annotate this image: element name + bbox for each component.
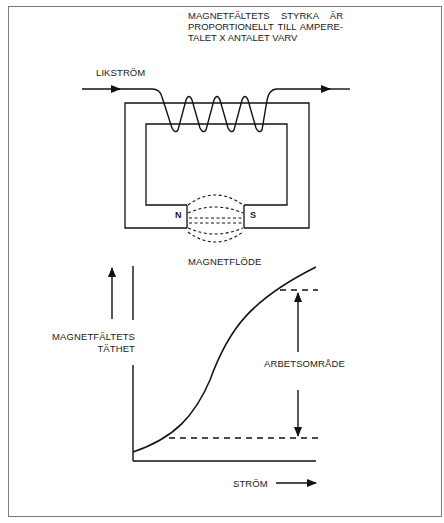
y-axis-label-line-2: TÄTHET: [48, 343, 135, 354]
iron-core: [125, 103, 309, 228]
coil-windings: [172, 89, 276, 132]
annotation-line-1: MAGNETFÄLTETS STYRKA ÄR: [188, 10, 343, 21]
magnetic-flux-label: MAGNETFLÖDE: [188, 256, 261, 267]
south-pole-label: S: [250, 210, 256, 220]
working-range-label: ARBETSOMRÅDE: [264, 358, 345, 369]
y-axis-label-line-1: MAGNETFÄLTETS: [48, 331, 135, 342]
x-axis-label: STRÖM: [233, 478, 268, 489]
annotation-line-2: PROPORTIONELLT TILL AMPERE-: [188, 21, 343, 32]
input-current-wire: [82, 89, 172, 128]
direct-current-label: LIKSTRÖM: [96, 67, 145, 78]
annotation-line-3: TALET X ANTALET VARV: [188, 32, 343, 43]
flux-lines: [188, 195, 243, 242]
coil-annotation: MAGNETFÄLTETS STYRKA ÄR PROPORTIONELLT T…: [188, 10, 343, 43]
north-pole-label: N: [175, 210, 182, 220]
